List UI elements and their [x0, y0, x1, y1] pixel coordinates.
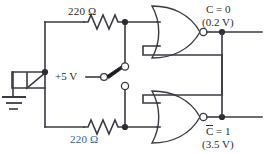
output-top-label-group: C = 0 (0.2 V) [206, 4, 234, 28]
supply-voltage-label: +5 V [55, 71, 77, 83]
node-dot-top [122, 19, 128, 25]
nor-bottom-bubble [200, 113, 207, 120]
nor-top-bubble [200, 28, 207, 35]
switch-terminal-upper[interactable] [121, 63, 128, 70]
resistor-bottom-label: 220 Ω [70, 134, 98, 146]
output-top-voltage-label: (0.2 V) [202, 17, 234, 29]
ground-symbol [12, 72, 45, 88]
switch-terminal-lower[interactable] [121, 82, 128, 89]
spdt-switch[interactable] [86, 63, 129, 90]
node-dot-bottom [122, 124, 128, 130]
switch-blade-arrow[interactable] [107, 66, 122, 78]
output-top-logic-label: C = 0 [206, 3, 231, 15]
resistor-bottom [84, 120, 125, 134]
resistor-top-label: 220 Ω [68, 6, 96, 18]
output-bottom-logic-label: C = 1 [206, 125, 231, 137]
switch-pivot[interactable] [101, 74, 108, 81]
output-bottom-label-group: C = 1 (3.5 V) [206, 125, 234, 150]
output-bottom-logic-rest: = 1 [213, 125, 230, 137]
circuit-figure: 220 Ω 220 Ω +5 V C = 0 (0.2 V) C = 1 (3.… [0, 0, 264, 154]
node-dot-ground-rail [42, 69, 48, 75]
output-bottom-voltage-label: (3.5 V) [202, 139, 234, 151]
